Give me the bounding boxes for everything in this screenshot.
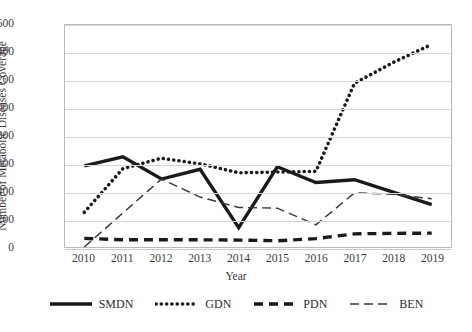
y-axis-tick-label: 800 [0, 136, 14, 148]
plot-frame [64, 24, 452, 248]
gridline [65, 193, 451, 194]
dotted-swatch [155, 299, 199, 309]
y-axis-tick-label: 600 [0, 164, 14, 176]
gridline [65, 137, 451, 138]
y-axis-tick-label: 1200 [0, 80, 14, 92]
solid-thick-swatch [49, 299, 93, 309]
series-line-pdn [84, 233, 431, 241]
y-axis-tick-label: 1400 [0, 52, 14, 64]
x-axis-title: Year [0, 270, 472, 282]
x-axis-title-label: Year [225, 270, 246, 282]
legend-label: BEN [399, 298, 423, 310]
gridline [65, 221, 451, 222]
gridline [65, 81, 451, 82]
x-axis-tick-label: 2019 [406, 252, 460, 264]
legend-label: SMDN [99, 298, 134, 310]
legend-label: PDN [303, 298, 327, 310]
legend-label: GDN [205, 298, 231, 310]
legend-item-smdn[interactable]: SMDN [49, 298, 134, 310]
gridline [65, 25, 451, 26]
gridline [65, 109, 451, 110]
y-axis-tick-label: 200 [0, 220, 14, 232]
legend-item-gdn[interactable]: GDN [155, 298, 231, 310]
gridline [65, 165, 451, 166]
y-axis-tick-label: 400 [0, 192, 14, 204]
chart-legend: SMDNGDNPDNBEN [0, 298, 472, 310]
plot-area [65, 25, 451, 247]
gridline [65, 249, 451, 250]
y-axis-tick-label: 1000 [0, 108, 14, 120]
legend-item-ben[interactable]: BEN [349, 298, 423, 310]
y-axis-tick-label: 1600 [0, 24, 14, 36]
dashed-thin-swatch [349, 299, 393, 309]
dashed-thick-swatch [253, 299, 297, 309]
line-chart: Number of Metabolic Diseases Coverage 02… [0, 0, 472, 332]
gridline [65, 53, 451, 54]
legend-item-pdn[interactable]: PDN [253, 298, 327, 310]
y-axis-tick-label: 0 [0, 248, 14, 260]
series-lines [65, 25, 451, 247]
